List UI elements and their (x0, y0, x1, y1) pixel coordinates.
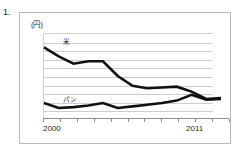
series-line-rice (44, 47, 221, 99)
series-label-rice: 米 (63, 38, 70, 46)
series-label-bread: パン (63, 96, 77, 104)
figure-container: 1. (円) 米 パン 2000 2011 (0, 0, 243, 155)
x-axis-label-end: 2011 (186, 124, 203, 134)
figure-frame: (円) 米 パン 2000 2011 (19, 12, 231, 144)
x-axis-label-start: 2000 (43, 124, 61, 134)
item-number: 1. (3, 7, 11, 18)
